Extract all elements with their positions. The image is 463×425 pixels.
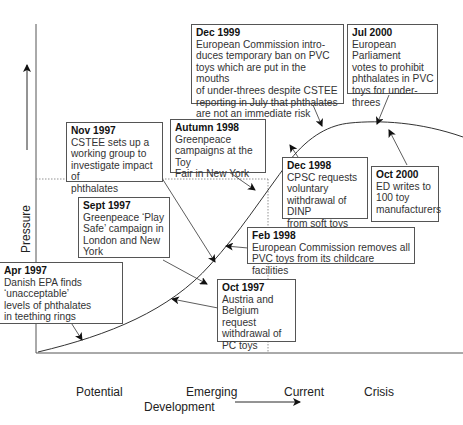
event-box-dec-1998: Dec 1998 CPSC requests voluntary withdra…	[282, 157, 368, 219]
event-description: Greenpeace campaigns at the Toy Fair in …	[175, 134, 262, 180]
event-description: Greenpeace ‘Play Safe’ campaign in Londo…	[83, 212, 166, 258]
event-date: Oct 2000	[376, 169, 435, 181]
event-date: Oct 1997	[222, 282, 292, 294]
event-date: Feb 1998	[252, 230, 411, 242]
event-date: Nov 1997	[71, 125, 159, 137]
event-date: Jul 2000	[352, 27, 434, 39]
event-description: Austria and Belgium request withdrawal o…	[222, 294, 292, 352]
arrow-feb-1998	[226, 246, 248, 248]
event-box-jul-2000: Jul 2000 European Parliament votes to pr…	[347, 24, 438, 94]
y-axis-label: Pressure	[19, 199, 33, 259]
stage-label-emerging: Emerging	[186, 385, 237, 399]
event-description: European Parliament votes to prohibit ph…	[352, 39, 434, 109]
event-box-oct-2000: Oct 2000 ED writes to 100 toy manufactur…	[371, 166, 439, 222]
event-description: CPSC requests voluntary withdrawal of DI…	[287, 172, 364, 230]
stage-label-current: Current	[284, 385, 324, 399]
stage-label-potential: Potential	[76, 385, 123, 399]
event-box-dec-1999: Dec 1999 European Commission intro- duce…	[191, 24, 344, 104]
x-axis-label: Development	[144, 400, 215, 414]
event-date: Sept 1997	[83, 200, 166, 212]
event-date: Apr 1997	[4, 265, 119, 277]
event-box-feb-1998: Feb 1998 European Commission removes all…	[247, 227, 415, 264]
event-box-oct-1997: Oct 1997 Austria and Belgium request wit…	[217, 279, 296, 342]
arrow-oct-1997	[172, 299, 218, 308]
event-box-nov-1997: Nov 1997 CSTEE sets up a working group t…	[66, 122, 163, 182]
event-date: Autumn 1998	[175, 122, 262, 134]
event-box-apr-1997: Apr 1997 Danish EPA finds ‘unacceptable’…	[0, 262, 123, 324]
arrow-oct-2000	[389, 130, 407, 165]
event-date: Dec 1998	[287, 160, 364, 172]
stage-label-crisis: Crisis	[364, 385, 394, 399]
event-box-sept-1997: Sept 1997 Greenpeace ‘Play Safe’ campaig…	[78, 197, 170, 258]
event-description: Danish EPA finds ‘unacceptable’ levels o…	[4, 277, 119, 323]
event-date: Dec 1999	[196, 27, 340, 39]
event-description: CSTEE sets up a working group to investi…	[71, 137, 159, 195]
event-box-autumn-1998: Autumn 1998 Greenpeace campaigns at the …	[170, 119, 266, 173]
event-description: European Commission removes all PVC toys…	[252, 242, 411, 277]
arrow-sept-1997	[163, 260, 207, 284]
event-description: European Commission intro- duces tempora…	[196, 39, 340, 120]
event-description: ED writes to 100 toy manufacturers	[376, 181, 435, 216]
